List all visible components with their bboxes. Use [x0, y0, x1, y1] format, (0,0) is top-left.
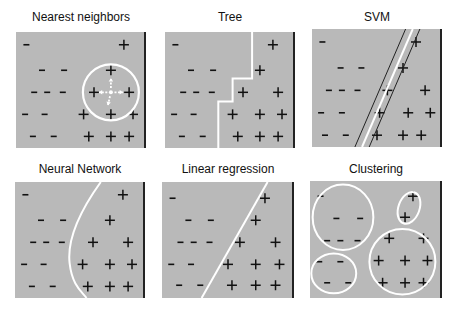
- plot-linear-regression: [162, 182, 294, 298]
- plot-svm: [312, 29, 442, 147]
- panel-svm: [312, 29, 442, 147]
- plot-tree: [165, 32, 295, 148]
- title-clustering: Clustering: [310, 162, 442, 176]
- title-neural-network: Neural Network: [15, 162, 145, 176]
- panel-tree: [165, 32, 295, 148]
- plot-background: [165, 32, 295, 148]
- plot-nearest-neighbors: [16, 32, 146, 148]
- title-svm: SVM: [312, 10, 442, 24]
- title-nearest-neighbors: Nearest neighbors: [16, 10, 146, 24]
- plot-background: [162, 182, 294, 298]
- plot-background: [15, 182, 145, 298]
- title-linear-regression: Linear regression: [162, 162, 294, 176]
- title-tree: Tree: [165, 10, 295, 24]
- panel-linear-regression: [162, 182, 294, 298]
- plot-neural-network: [15, 182, 145, 298]
- plot-background: [16, 32, 146, 148]
- query-point: [109, 90, 113, 94]
- plot-clustering: [310, 181, 442, 298]
- panel-neural-network: [15, 182, 145, 298]
- panel-clustering: [310, 181, 442, 298]
- panel-nearest-neighbors: [16, 32, 146, 148]
